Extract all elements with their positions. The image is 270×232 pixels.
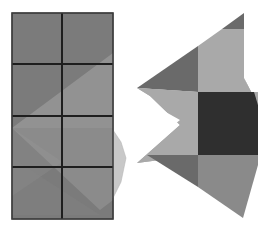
lower-mid-piece <box>198 155 258 218</box>
side-tab <box>113 130 126 198</box>
top-dark-triangle <box>222 13 244 29</box>
left-grid-panel <box>12 13 126 219</box>
upper-left-dark-triangle <box>137 46 198 92</box>
puzzle-figure <box>0 0 270 232</box>
right-composite-panel <box>137 13 258 218</box>
dark-square <box>198 92 258 155</box>
